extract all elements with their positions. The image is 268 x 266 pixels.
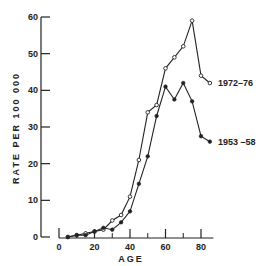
data-point-filled-circle (190, 100, 194, 104)
data-point-open-circle (164, 67, 168, 71)
y-tick-label: 50 (28, 49, 38, 59)
data-point-open-circle (181, 45, 185, 49)
x-tick-label: 60 (160, 242, 170, 252)
data-point-open-circle (137, 158, 141, 162)
data-point-filled-circle (119, 221, 123, 225)
y-axis: 0102030405060 (28, 12, 50, 242)
data-point-filled-circle (181, 81, 185, 85)
data-point-open-circle (199, 74, 203, 78)
data-point-filled-circle (75, 233, 79, 237)
x-tick-label: 40 (125, 242, 135, 252)
data-point-filled-circle (66, 235, 70, 239)
x-tick-label: 20 (89, 242, 99, 252)
data-point-filled-circle (110, 228, 114, 232)
y-tick-label: 60 (28, 12, 38, 22)
data-point-filled-circle (102, 226, 106, 230)
data-point-open-circle (208, 81, 212, 85)
data-point-open-circle (128, 195, 132, 199)
data-point-filled-circle (93, 230, 97, 234)
y-tick-label: 10 (28, 195, 38, 205)
data-point-filled-circle (208, 140, 212, 144)
x-axis-label: AGE (118, 254, 144, 264)
series-1953-58: 1953 –58 (66, 81, 255, 239)
series-1972-76: 1972–76 (66, 19, 253, 239)
y-tick-label: 40 (28, 85, 38, 95)
y-axis-label: RATE PER 100 000 (11, 72, 21, 184)
data-point-filled-circle (199, 134, 203, 138)
series-lines: 1972–761953 –58 (66, 19, 255, 239)
data-point-open-circle (190, 19, 194, 23)
line-chart: 0102030405060 020406080 1972–761953 –58 … (0, 0, 268, 266)
data-point-filled-circle (173, 98, 177, 102)
data-point-filled-circle (137, 182, 141, 186)
data-point-filled-circle (164, 85, 168, 89)
data-point-filled-circle (155, 114, 159, 118)
y-tick-label: 30 (28, 122, 38, 132)
x-tick-label: 80 (196, 242, 206, 252)
x-tick-label: 0 (56, 242, 61, 252)
data-point-open-circle (110, 219, 114, 223)
data-point-filled-circle (146, 155, 150, 159)
y-tick-label: 20 (28, 159, 38, 169)
series-label: 1953 –58 (218, 137, 256, 147)
data-point-filled-circle (84, 233, 88, 237)
x-axis: 020406080 (56, 228, 213, 252)
data-point-open-circle (155, 103, 159, 107)
data-point-open-circle (146, 111, 150, 115)
data-point-open-circle (173, 56, 177, 60)
data-point-open-circle (119, 213, 123, 217)
series-label: 1972–76 (218, 78, 253, 88)
y-tick-label: 0 (33, 232, 38, 242)
data-point-filled-circle (128, 210, 132, 214)
